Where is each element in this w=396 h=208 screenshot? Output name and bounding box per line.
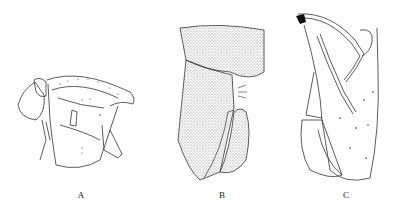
figure-panel-c: C bbox=[260, 0, 396, 208]
figure-panel-a: A bbox=[0, 0, 140, 208]
panel-c-drawing bbox=[260, 0, 396, 208]
panel-label-c: C bbox=[336, 190, 356, 200]
panel-label-a: A bbox=[71, 190, 91, 200]
panel-b-drawing bbox=[130, 0, 270, 208]
figure-panel-b: B bbox=[130, 0, 270, 208]
panel-label-b: B bbox=[212, 190, 232, 200]
panel-a-drawing bbox=[0, 0, 140, 208]
